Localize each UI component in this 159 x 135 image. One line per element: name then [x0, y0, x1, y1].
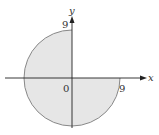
y-intercept-label: 9 [62, 19, 68, 30]
origin-label: 0 [63, 83, 69, 94]
y-axis-arrow-icon [70, 16, 75, 23]
y-axis-label: y [68, 5, 75, 16]
diagram-canvas: x y 0 9 9 [0, 0, 159, 135]
x-axis-arrow-icon [140, 76, 147, 81]
x-axis-label: x [148, 72, 154, 83]
x-intercept-label: 9 [119, 83, 125, 94]
